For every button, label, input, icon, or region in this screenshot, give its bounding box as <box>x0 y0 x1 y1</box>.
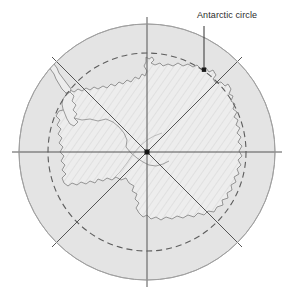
island-dot <box>43 49 45 51</box>
island-dot <box>48 61 50 63</box>
island-dot <box>45 44 47 46</box>
antarctic-circle-label: Antarctic circle <box>197 10 257 21</box>
antarctica-polar-map <box>0 0 289 300</box>
island-dot <box>46 54 48 56</box>
figure-canvas: Antarctic circle <box>0 0 289 300</box>
antarctic-circle-leader-marker <box>202 68 206 72</box>
south-pole-marker <box>145 150 150 155</box>
island-dot <box>42 58 44 60</box>
